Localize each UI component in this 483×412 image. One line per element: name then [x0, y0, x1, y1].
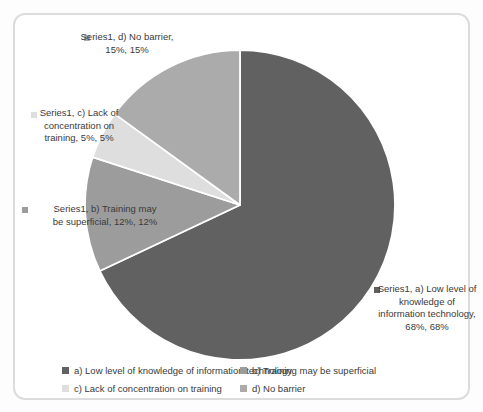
legend-item-c: c) Lack of concentration on training [62, 382, 240, 395]
legend-item-b: b) Training may be superficial [240, 364, 452, 377]
data-label-a: Series1, a) Low level of knowledge of in… [372, 283, 482, 333]
data-label-d: Series1, d) No barrier, 15%, 15% [57, 31, 197, 56]
data-label-c: Series1, c) Lack of concentration on tra… [19, 107, 139, 145]
legend: a) Low level of knowledge of information… [62, 364, 452, 395]
data-label-key-icon-b [22, 207, 28, 213]
legend-item-d: d) No barrier [240, 382, 452, 395]
legend-key-icon-a [62, 367, 69, 374]
legend-label-b: b) Training may be superficial [252, 364, 376, 377]
legend-key-icon-c [62, 385, 69, 392]
legend-key-icon-b [240, 367, 247, 374]
data-label-b: Series1, b) Training may be superficial,… [35, 203, 175, 228]
chart-frame: Series1, d) No barrier, 15%, 15% Series1… [13, 13, 470, 400]
legend-label-c: c) Lack of concentration on training [74, 382, 222, 395]
legend-label-d: d) No barrier [252, 382, 305, 395]
legend-key-icon-d [240, 385, 247, 392]
pie-chart-figure: { "chart_data": { "type": "pie", "title"… [0, 0, 483, 412]
legend-item-a: a) Low level of knowledge of information… [62, 364, 240, 377]
